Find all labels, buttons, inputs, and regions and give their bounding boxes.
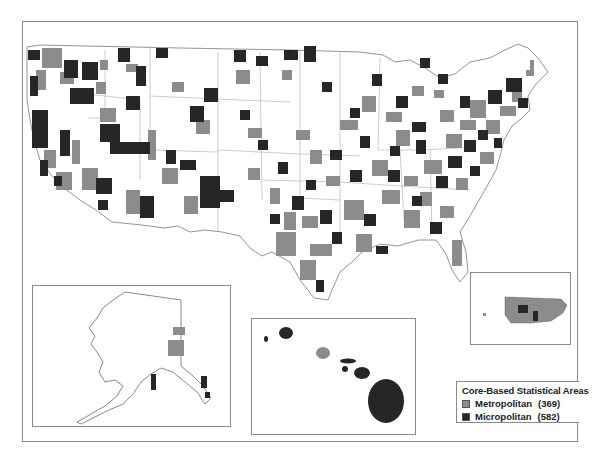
alaska-metro-fairbanks [173,327,185,335]
alaska-micro-juneau [201,376,207,388]
hawaii-map [252,319,417,436]
metropolitan-swatch [462,400,470,408]
micropolitan-swatch [462,413,470,421]
hawaii-inset [251,318,416,435]
oahu-island [316,347,330,359]
alaska-micro-ketchikan [205,392,210,398]
niihau-island [264,336,268,342]
legend-item-metropolitan: Metropolitan (369) [462,398,579,409]
legend-count: (369) [538,398,560,409]
puerto-rico-micro-2 [533,311,538,321]
legend-label: Metropolitan [475,398,532,409]
kauai-island [279,327,293,339]
legend-count: (582) [537,411,559,422]
legend-item-micropolitan: Micropolitan (582) [462,411,579,422]
legend-title: Core-Based Statistical Areas [462,385,579,396]
big-island [368,379,404,423]
puerto-rico-map [471,273,572,346]
map-legend: Core-Based Statistical Areas Metropolita… [456,381,579,423]
legend-label: Micropolitan [475,411,531,422]
alaska-micro-kenai [151,374,156,390]
alaska-outline [77,292,211,424]
lanai-island [342,366,348,372]
puerto-rico-inset [470,272,571,345]
alaska-metro-anchorage [168,340,184,356]
alaska-inset [32,285,231,427]
mona-island [483,313,486,316]
puerto-rico-micro-1 [518,305,528,313]
molokai-island [340,359,356,364]
alaska-map [33,286,232,428]
maui-island [354,367,370,379]
